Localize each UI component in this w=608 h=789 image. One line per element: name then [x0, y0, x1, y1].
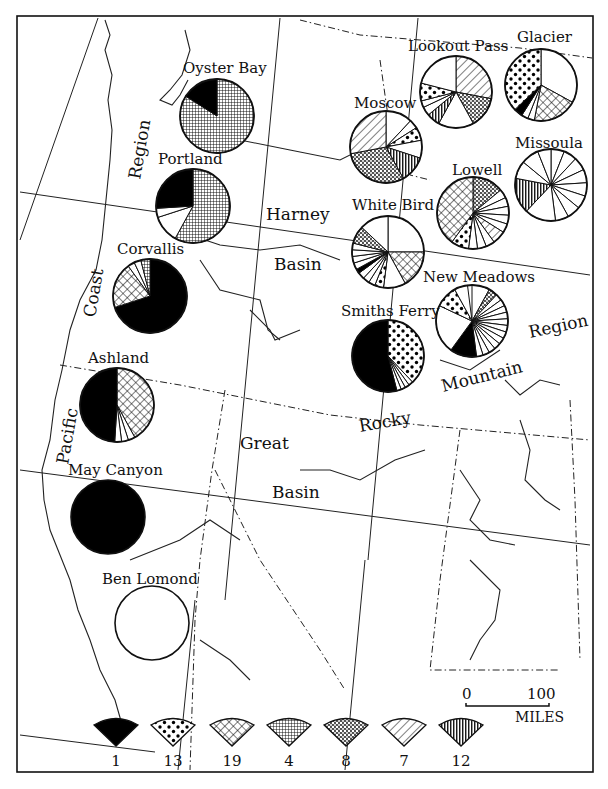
solid-black-swatch	[94, 719, 138, 747]
scale-units: MILES	[515, 709, 564, 725]
pie-portland	[156, 169, 230, 243]
legend-item-19: 19	[210, 719, 254, 771]
label-new-meadows: New Meadows	[423, 268, 535, 286]
pie-new-meadows	[436, 285, 508, 357]
label-portland: Portland	[158, 150, 223, 168]
pie-ben-lomond	[115, 586, 189, 660]
legend-item-7: 7	[382, 719, 426, 771]
legend-item-4: 4	[267, 719, 311, 771]
label-pacific: Pacific	[52, 406, 82, 465]
stipple-swatch	[324, 719, 368, 747]
scale-hundred: 100	[527, 685, 556, 703]
label-white-bird: White Bird	[352, 196, 435, 214]
label-oyster-bay: Oyster Bay	[183, 59, 267, 77]
label-basin-1: Basin	[274, 254, 322, 274]
pie-may-canyon	[71, 480, 145, 554]
pie-slice	[456, 56, 492, 99]
label-harney: Harney	[266, 204, 330, 224]
label-glacier: Glacier	[517, 28, 573, 46]
pie-slice	[115, 586, 189, 660]
scale-zero: 0	[462, 685, 472, 703]
legend-item-1: 1	[94, 719, 138, 771]
legend-label: 8	[341, 752, 351, 770]
pie-slice	[350, 111, 386, 154]
crosshatch-swatch	[210, 719, 254, 747]
pie-lookout-pass	[420, 56, 492, 128]
label-region-nw: Region	[124, 118, 154, 181]
pie-glacier	[505, 49, 577, 121]
label-may-canyon: May Canyon	[68, 461, 163, 479]
legend-label: 19	[222, 752, 241, 770]
label-region-e: Region	[527, 310, 590, 342]
label-moscow: Moscow	[354, 94, 417, 112]
large-dots-swatch	[151, 719, 195, 747]
pie-moscow	[350, 111, 422, 183]
legend-item-8: 8	[324, 719, 368, 771]
vertical-lines-swatch	[439, 719, 483, 747]
label-lookout-pass: Lookout Pass	[408, 37, 508, 55]
pie-white-bird	[352, 216, 424, 288]
legend-item-13: 13	[151, 719, 195, 771]
pie-slice	[80, 368, 117, 442]
haplotype-pie-map: Oyster Bay Portland Corvallis Ashland Ma…	[0, 0, 608, 789]
label-ashland: Ashland	[87, 349, 150, 367]
pie-slice	[71, 480, 145, 554]
label-missoula: Missoula	[515, 134, 583, 152]
fine-dots-swatch	[267, 719, 311, 747]
label-great: Great	[240, 433, 289, 453]
label-smiths-ferry: Smiths Ferry	[341, 302, 440, 320]
label-ben-lomond: Ben Lomond	[102, 570, 198, 588]
label-coast: Coast	[79, 267, 107, 319]
legend-label: 13	[163, 752, 182, 770]
label-lowell: Lowell	[452, 161, 503, 179]
diagonal-lines-swatch	[382, 719, 426, 747]
legend-label: 1	[111, 752, 121, 770]
scale-bar: 0 100 MILES	[462, 685, 564, 725]
legend-label: 7	[399, 752, 409, 770]
pattern-legend: 1131948712	[94, 719, 483, 771]
legend-label: 12	[451, 752, 470, 770]
legend-item-12: 12	[439, 719, 483, 771]
legend-label: 4	[284, 752, 294, 770]
label-rocky: Rocky	[357, 407, 413, 436]
pie-smiths-ferry	[352, 320, 424, 392]
pie-corvallis	[113, 259, 187, 333]
pie-ashland	[80, 368, 154, 442]
label-basin-2: Basin	[272, 482, 320, 502]
pie-oyster-bay	[180, 79, 254, 153]
pie-missoula	[515, 149, 587, 221]
pie-lowell	[437, 177, 509, 249]
label-corvallis: Corvallis	[117, 240, 184, 258]
